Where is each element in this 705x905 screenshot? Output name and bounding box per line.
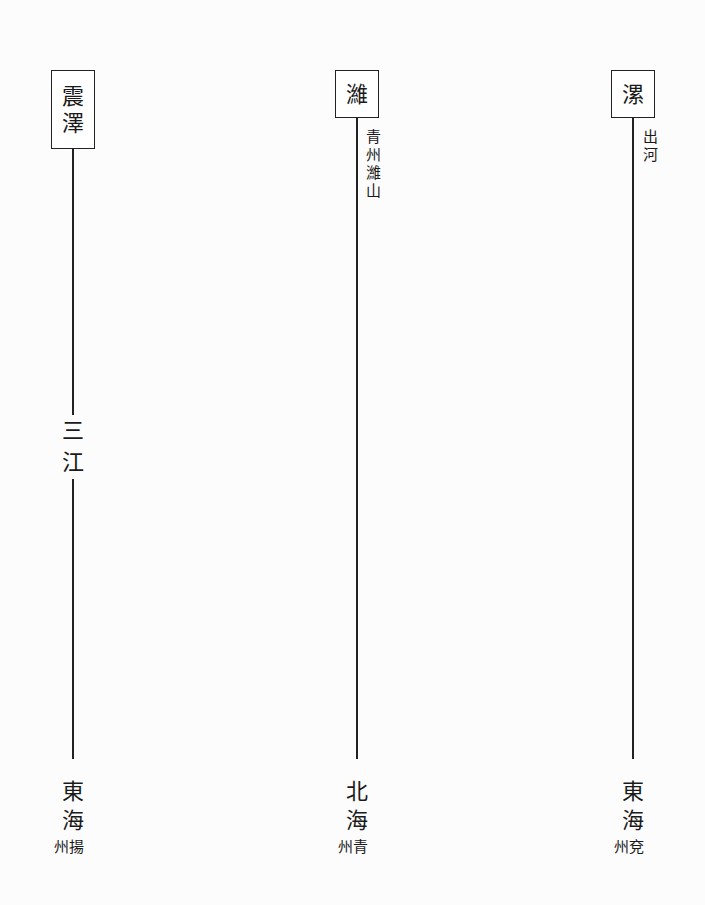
- province-label: 州兗: [614, 835, 644, 856]
- source-char: 震: [62, 83, 84, 110]
- mouth-char: 海: [60, 806, 86, 835]
- river-line: [632, 118, 634, 759]
- mouth-label: 東 海: [60, 777, 86, 835]
- middle-label-sanjiang: 三 江: [60, 415, 86, 479]
- province-label: 州青: [338, 835, 368, 856]
- source-char: 濰: [346, 81, 368, 108]
- middle-char: 江: [60, 447, 86, 479]
- province-label: 州揚: [54, 835, 84, 856]
- source-box-zhenze: 震 澤: [51, 70, 95, 149]
- source-char: 澤: [62, 110, 84, 137]
- mouth-char: 東: [60, 777, 86, 806]
- mouth-char: 東: [620, 777, 646, 806]
- middle-char: 三: [60, 415, 86, 447]
- mouth-label: 北 海: [344, 777, 370, 835]
- source-char: 漯: [622, 81, 644, 108]
- source-box-luo: 漯: [611, 70, 655, 118]
- river-line: [356, 118, 358, 759]
- annotation: 青州濰山: [364, 128, 382, 200]
- mouth-char: 海: [620, 806, 646, 835]
- annotation: 出河: [641, 128, 659, 164]
- mouth-char: 海: [344, 806, 370, 835]
- mouth-char: 北: [344, 777, 370, 806]
- mouth-label: 東 海: [620, 777, 646, 835]
- source-box-wei: 濰: [335, 70, 379, 118]
